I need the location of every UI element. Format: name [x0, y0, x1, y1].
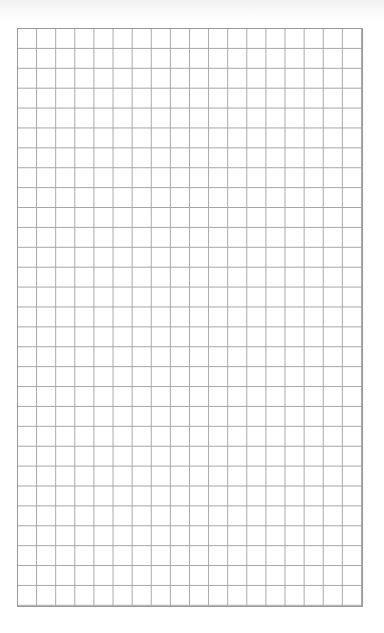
top-shadow	[0, 0, 384, 22]
graph-paper-grid	[17, 28, 363, 607]
